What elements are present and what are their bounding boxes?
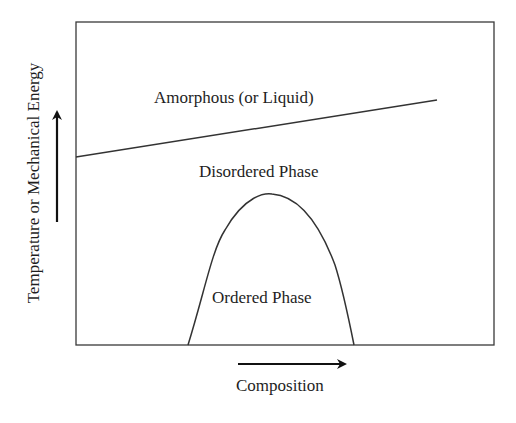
amorphous-label: Amorphous (or Liquid)	[154, 88, 314, 108]
x-axis-label: Composition	[236, 376, 324, 396]
ordered-phase-dome	[188, 194, 354, 345]
amorphous-boundary-line	[76, 100, 437, 157]
ordered-phase-label: Ordered Phase	[212, 288, 312, 308]
disordered-phase-label: Disordered Phase	[199, 162, 318, 182]
phase-diagram	[0, 0, 516, 423]
y-axis-label: Temperature or Mechanical Energy	[24, 33, 44, 333]
